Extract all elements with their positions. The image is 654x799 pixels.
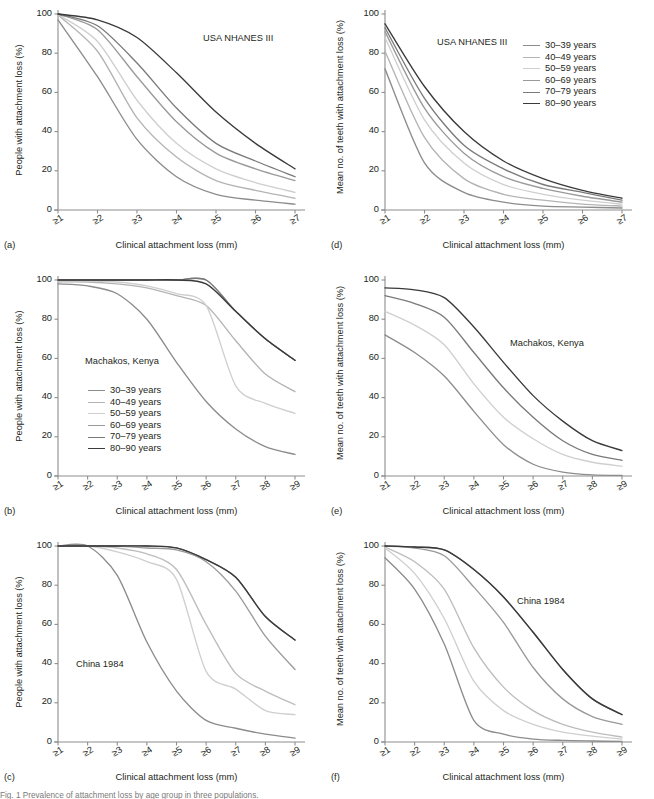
panel-d: Mean no. of teeth with attachment loss (… <box>327 0 654 266</box>
legend-swatch-icon <box>523 45 540 46</box>
legend-item: 70–79 years <box>88 431 161 443</box>
y-tick-label: 40 <box>349 657 379 667</box>
legend-swatch-icon <box>523 80 540 81</box>
panel-f: Mean no. of teeth with attachment loss (… <box>327 532 654 798</box>
legend-swatch-icon <box>88 413 105 414</box>
chart-c <box>58 546 307 750</box>
legend-item: 40–49 years <box>88 397 161 409</box>
legend-label: 60–69 years <box>545 75 596 87</box>
y-tick-label: 100 <box>349 274 379 284</box>
y-tick-label: 20 <box>349 430 379 440</box>
series-line <box>58 278 295 360</box>
y-tick-label: 0 <box>22 204 52 214</box>
panel-e-xlabel: Clinical attachment loss (mm) <box>385 506 622 516</box>
y-tick-label: 60 <box>22 618 52 628</box>
series-line <box>58 282 295 392</box>
legend-item: 30–39 years <box>523 40 596 52</box>
panel-e-study-note: Machakos, Kenya <box>510 338 584 348</box>
series-line <box>58 546 295 715</box>
panel-b-xlabel: Clinical attachment loss (mm) <box>58 506 295 516</box>
legend-item: 70–79 years <box>523 86 596 98</box>
y-tick-label: 0 <box>22 470 52 480</box>
panel-d-xlabel: Clinical attachment loss (mm) <box>385 240 622 250</box>
y-tick-label: 20 <box>22 164 52 174</box>
y-tick-label: 100 <box>349 540 379 550</box>
y-tick-label: 80 <box>22 47 52 57</box>
legend-item: 60–69 years <box>523 75 596 87</box>
panel-c-plot: 020406080100≥1≥2≥3≥4≥5≥6≥7≥8≥9 <box>58 546 295 742</box>
legend-label: 50–59 years <box>110 408 161 420</box>
series-line <box>58 278 295 360</box>
panel-d-legend: 30–39 years40–49 years50–59 years60–69 y… <box>523 40 596 110</box>
panel-c-tag: (c) <box>4 772 15 782</box>
figure-caption: Fig. 1 Prevalence of attachment loss by … <box>0 791 654 799</box>
panel-c-study-note: China 1984 <box>76 659 124 669</box>
legend-item: 30–39 years <box>88 385 161 397</box>
legend-label: 80–90 years <box>110 443 161 455</box>
panel-f-xlabel: Clinical attachment loss (mm) <box>385 772 622 782</box>
panel-f-plot: 020406080100≥1≥2≥3≥4≥5≥6≥7≥8≥9 <box>385 546 622 742</box>
legend-swatch-icon <box>88 425 105 426</box>
series-line <box>385 548 622 739</box>
legend-item: 40–49 years <box>523 52 596 64</box>
y-tick-label: 100 <box>349 8 379 18</box>
y-tick-label: 40 <box>349 125 379 135</box>
y-tick-label: 100 <box>22 8 52 18</box>
y-tick-label: 0 <box>349 470 379 480</box>
panel-a-tag: (a) <box>4 240 15 250</box>
legend-label: 30–39 years <box>110 385 161 397</box>
series-line <box>385 288 622 451</box>
legend-label: 30–39 years <box>545 40 596 52</box>
panel-a-plot: 020406080100≥1≥2≥3≥4≥5≥6≥7 <box>58 14 295 210</box>
y-tick-label: 60 <box>349 86 379 96</box>
panel-d-study-note: USA NHANES III <box>437 37 507 47</box>
legend-item: 50–59 years <box>523 63 596 75</box>
legend-swatch-icon <box>523 92 540 93</box>
y-tick-label: 60 <box>22 352 52 362</box>
panel-c-xlabel: Clinical attachment loss (mm) <box>58 772 295 782</box>
legend-item: 60–69 years <box>88 420 161 432</box>
y-tick-label: 60 <box>349 352 379 362</box>
series-line <box>58 546 295 705</box>
legend-item: 80–90 years <box>523 98 596 110</box>
y-tick-label: 40 <box>22 657 52 667</box>
y-tick-label: 40 <box>22 125 52 135</box>
y-tick-label: 0 <box>349 736 379 746</box>
y-tick-label: 100 <box>22 540 52 550</box>
panel-a-study-note: USA NHANES III <box>203 33 273 43</box>
y-tick-label: 0 <box>22 736 52 746</box>
figure-root: People with attachment loss (%) 02040608… <box>0 0 654 799</box>
legend-swatch-icon <box>88 448 105 449</box>
panel-b-legend: 30–39 years40–49 years50–59 years60–69 y… <box>88 385 161 455</box>
chart-d <box>385 14 634 218</box>
legend-swatch-icon <box>88 437 105 438</box>
panel-a: People with attachment loss (%) 02040608… <box>0 0 327 266</box>
series-line <box>58 546 295 640</box>
legend-swatch-icon <box>523 57 540 58</box>
y-tick-label: 40 <box>22 391 52 401</box>
chart-e <box>385 280 634 484</box>
panel-b-tag: (b) <box>4 506 15 516</box>
series-line <box>385 546 622 715</box>
y-tick-label: 60 <box>22 86 52 96</box>
legend-label: 70–79 years <box>545 86 596 98</box>
y-tick-label: 20 <box>22 696 52 706</box>
y-tick-label: 100 <box>22 274 52 284</box>
y-tick-label: 20 <box>349 696 379 706</box>
panel-e-plot: 020406080100≥1≥2≥3≥4≥5≥6≥7≥8≥9 <box>385 280 622 476</box>
y-tick-label: 80 <box>22 313 52 323</box>
legend-label: 80–90 years <box>545 98 596 110</box>
legend-swatch-icon <box>88 402 105 403</box>
legend-swatch-icon <box>523 68 540 69</box>
y-tick-label: 20 <box>349 164 379 174</box>
panel-e: Mean no. of teeth with attachment loss (… <box>327 266 654 532</box>
series-line <box>385 546 622 715</box>
panel-d-tag: (d) <box>331 240 342 250</box>
panel-f-tag: (f) <box>331 772 340 782</box>
panel-a-xlabel: Clinical attachment loss (mm) <box>58 240 295 250</box>
panel-b: People with attachment loss (%) 02040608… <box>0 266 327 532</box>
legend-label: 60–69 years <box>110 420 161 432</box>
series-line <box>385 296 622 461</box>
legend-label: 40–49 years <box>545 52 596 64</box>
legend-label: 70–79 years <box>110 431 161 443</box>
